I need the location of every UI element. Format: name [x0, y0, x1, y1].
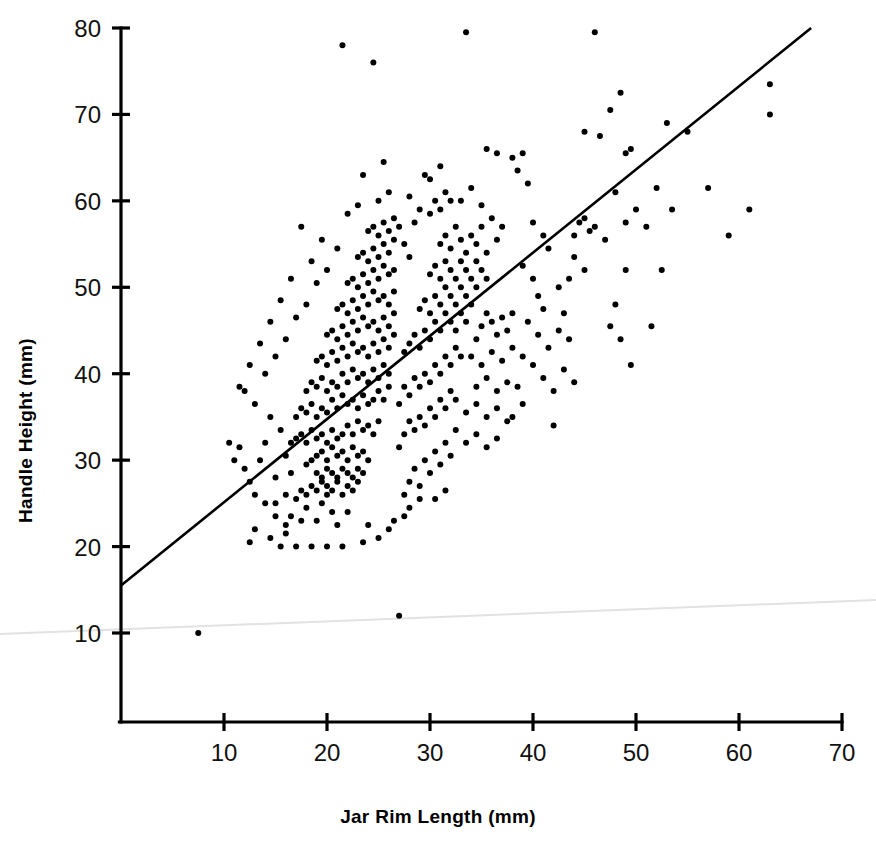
- x-axis-title: Jar Rim Length (mm): [0, 806, 876, 828]
- data-point: [582, 267, 588, 273]
- data-point: [412, 219, 418, 225]
- data-point: [602, 237, 608, 243]
- data-point: [494, 237, 500, 243]
- data-point: [262, 440, 268, 446]
- data-point: [566, 336, 572, 342]
- data-point: [293, 436, 299, 442]
- data-point: [391, 237, 397, 243]
- data-point: [417, 483, 423, 489]
- data-point: [324, 483, 330, 489]
- data-point: [360, 427, 366, 433]
- data-point: [432, 362, 438, 368]
- data-point: [561, 366, 567, 372]
- data-point: [432, 198, 438, 204]
- data-point: [329, 444, 335, 450]
- data-point: [334, 358, 340, 364]
- data-point: [504, 418, 510, 424]
- data-point: [643, 224, 649, 230]
- data-point: [401, 241, 407, 247]
- data-point: [365, 302, 371, 308]
- data-point: [473, 241, 479, 247]
- data-point: [370, 245, 376, 251]
- data-point: [422, 457, 428, 463]
- data-point: [520, 150, 526, 156]
- data-point: [494, 405, 500, 411]
- data-point: [360, 250, 366, 256]
- data-point: [293, 414, 299, 420]
- data-point: [376, 232, 382, 238]
- data-point: [298, 487, 304, 493]
- data-point: [355, 306, 361, 312]
- data-point: [509, 345, 515, 351]
- y-tick-label: 30: [74, 447, 101, 474]
- data-point: [334, 245, 340, 251]
- data-point: [355, 375, 361, 381]
- data-point: [376, 276, 382, 282]
- data-point: [458, 258, 464, 264]
- data-point: [365, 228, 371, 234]
- data-point: [329, 487, 335, 493]
- data-point: [587, 228, 593, 234]
- data-point: [489, 319, 495, 325]
- data-point: [432, 263, 438, 269]
- data-point: [473, 258, 479, 264]
- data-point: [520, 401, 526, 407]
- data-point: [494, 388, 500, 394]
- data-point: [195, 630, 201, 636]
- data-point: [432, 496, 438, 502]
- data-point: [494, 332, 500, 338]
- data-point: [273, 474, 279, 480]
- data-point: [334, 474, 340, 480]
- data-point: [417, 384, 423, 390]
- data-point: [504, 379, 510, 385]
- data-point: [442, 405, 448, 411]
- data-point: [566, 276, 572, 282]
- data-point: [273, 513, 279, 519]
- data-point: [386, 271, 392, 277]
- data-point: [515, 384, 521, 390]
- data-point: [417, 414, 423, 420]
- data-point: [406, 418, 412, 424]
- data-point: [376, 418, 382, 424]
- data-point: [484, 375, 490, 381]
- data-point: [391, 332, 397, 338]
- data-point: [376, 388, 382, 394]
- data-point: [319, 237, 325, 243]
- data-point: [293, 496, 299, 502]
- data-point: [473, 431, 479, 437]
- data-point: [314, 470, 320, 476]
- y-tick-label: 20: [74, 534, 101, 561]
- data-point: [257, 340, 263, 346]
- data-point: [489, 349, 495, 355]
- data-point: [396, 444, 402, 450]
- data-point: [350, 276, 356, 282]
- data-point: [463, 250, 469, 256]
- data-point: [432, 319, 438, 325]
- data-point: [339, 392, 345, 398]
- data-point: [324, 440, 330, 446]
- data-point: [319, 405, 325, 411]
- data-point: [463, 440, 469, 446]
- data-point: [314, 436, 320, 442]
- data-point: [360, 172, 366, 178]
- data-point: [427, 379, 433, 385]
- x-tick-label: 50: [623, 739, 650, 766]
- data-point: [437, 163, 443, 169]
- data-point: [376, 254, 382, 260]
- data-point: [365, 353, 371, 359]
- data-point: [288, 276, 294, 282]
- data-point: [571, 232, 577, 238]
- data-point: [592, 224, 598, 230]
- data-point: [422, 423, 428, 429]
- data-point: [334, 306, 340, 312]
- data-point: [350, 474, 356, 480]
- data-point: [262, 500, 268, 506]
- data-point: [705, 185, 711, 191]
- data-point: [329, 509, 335, 515]
- data-point: [458, 353, 464, 359]
- data-point: [654, 185, 660, 191]
- data-point: [556, 328, 562, 334]
- data-point: [479, 323, 485, 329]
- data-point: [283, 531, 289, 537]
- data-point: [303, 461, 309, 467]
